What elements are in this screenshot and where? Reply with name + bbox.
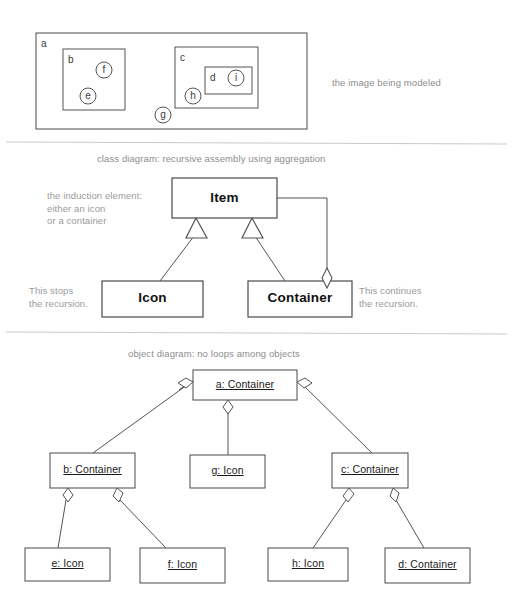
- object-link-c-h: [313, 500, 346, 548]
- object-label-b: b: Container: [50, 463, 135, 475]
- object-label-h: h: Icon: [268, 557, 348, 569]
- divider-1: [6, 142, 507, 144]
- object-label-a: a: Container: [193, 378, 297, 390]
- figure-canvas: a b c d f e i h g the image being modele…: [0, 0, 513, 590]
- object-link-a-b: [93, 385, 187, 453]
- aggregation-path-item-container: [277, 198, 327, 272]
- image-label-e: e: [80, 88, 96, 104]
- object-aggregation-diamond-c-h: [343, 488, 354, 502]
- generalization-line-icon: [160, 236, 194, 281]
- generalization-arrow-container: [242, 218, 263, 238]
- object-label-e: e: Icon: [25, 557, 110, 569]
- image-label-h: h: [185, 88, 201, 104]
- object-link-c-d: [396, 500, 424, 548]
- caption-class-diagram: class diagram: recursive assembly using …: [97, 153, 325, 165]
- object-aggregation-diamond-c-d: [390, 488, 399, 502]
- note-stops-recursion: This stops the recursion.: [29, 285, 88, 310]
- object-link-a-c: [303, 385, 372, 453]
- class-label-container: Container: [248, 290, 352, 305]
- image-label-b: b: [68, 54, 74, 65]
- generalization-arrow-icon: [186, 218, 207, 238]
- object-link-b-e: [58, 500, 66, 548]
- note-continues-recursion: This continues the recursion.: [359, 285, 422, 310]
- object-aggregation-diamond-a-b-shape: [178, 378, 193, 388]
- class-label-item: Item: [172, 190, 277, 205]
- image-panel-shapes: [36, 33, 307, 129]
- image-label-d: d: [210, 72, 216, 83]
- caption-image-panel: the image being modeled: [332, 77, 441, 89]
- image-label-f: f: [96, 62, 112, 78]
- note-induction-element: the induction element: either an icon or…: [47, 190, 142, 228]
- image-label-a: a: [41, 38, 47, 49]
- object-link-b-f: [120, 500, 166, 548]
- image-label-i: i: [228, 70, 244, 86]
- object-label-g: g: Icon: [190, 464, 265, 476]
- object-aggregation-diamond-b-e: [63, 488, 73, 502]
- class-label-icon: Icon: [102, 290, 203, 305]
- divider-2: [6, 332, 507, 334]
- image-label-c: c: [180, 52, 185, 63]
- object-aggregation-diamond-b-f: [113, 488, 123, 502]
- object-label-d: d: Container: [383, 558, 472, 570]
- object-aggregation-diamond-a-c: [297, 378, 312, 388]
- object-label-c: c: Container: [330, 463, 410, 475]
- object-diagram-shapes: [25, 370, 470, 583]
- image-box-a: [36, 33, 307, 129]
- object-aggregation-diamond-a-g: [223, 400, 233, 414]
- image-label-g: g: [155, 107, 171, 123]
- object-label-f: f: Icon: [140, 558, 225, 570]
- caption-object-diagram: object diagram: no loops among objects: [128, 348, 300, 360]
- generalization-line-container: [255, 236, 285, 281]
